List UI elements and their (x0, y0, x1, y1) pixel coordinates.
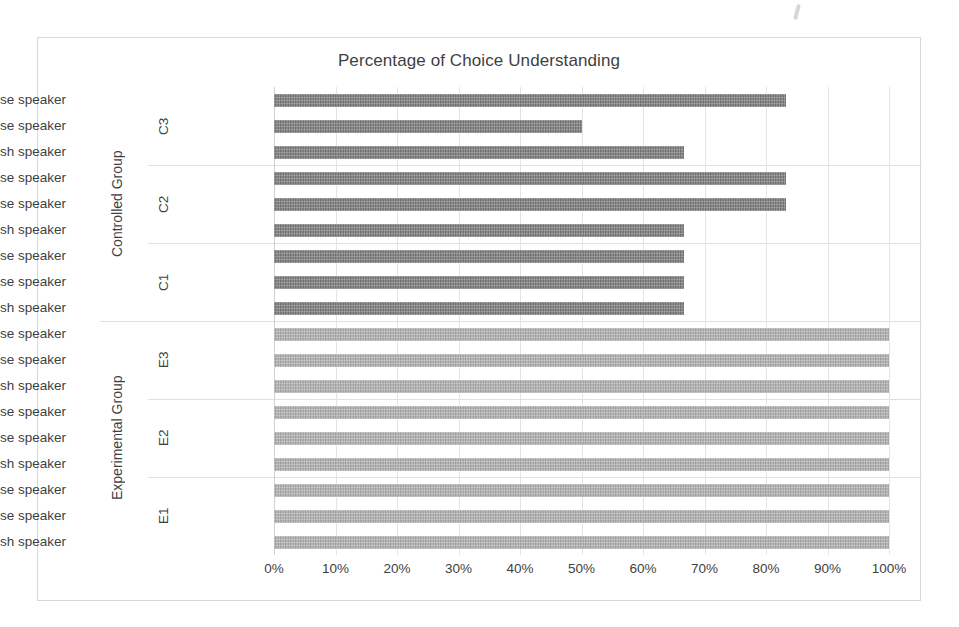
bar-slot (274, 165, 786, 191)
bar-c2-japanese (274, 198, 786, 211)
category-label-c1-english: English speaker (0, 295, 66, 321)
bar-e2-japanese (274, 432, 889, 445)
bar-slot (274, 243, 684, 269)
bars-layer (274, 87, 889, 555)
bar-c1-chinese (274, 250, 684, 263)
bar-e3-english (274, 380, 889, 393)
bar-slot (274, 451, 889, 477)
bar-c2-english (274, 224, 684, 237)
bar-slot (274, 347, 889, 373)
bar-slot (274, 373, 889, 399)
category-label-c2-english: English speaker (0, 217, 66, 243)
category-label-c3-english: English speaker (0, 139, 66, 165)
bar-e3-chinese (274, 328, 889, 341)
bar-c2-chinese (274, 172, 786, 185)
bar-e2-chinese (274, 406, 889, 419)
category-label-c1-chinese: Chinese speaker (0, 243, 66, 269)
tick-label-100%: 100% (859, 561, 919, 576)
subgroup-label-c1: C1 (150, 243, 176, 321)
subgroup-label-c3: C3 (150, 87, 176, 165)
subgroup-label-e3: E3 (150, 321, 176, 399)
category-label-c3-japanese: Japanese speaker (0, 113, 66, 139)
category-label-c2-chinese: Chinese speaker (0, 165, 66, 191)
bar-slot (274, 295, 684, 321)
category-label-c1-japanese: Japanese speaker (0, 269, 66, 295)
bar-slot (274, 87, 786, 113)
category-label-e1-japanese: Japanese speaker (0, 503, 66, 529)
category-label-e2-chinese: Chinese speaker (0, 399, 66, 425)
category-label-c2-japanese: Japanese speaker (0, 191, 66, 217)
bar-slot (274, 399, 889, 425)
bar-e2-english (274, 458, 889, 471)
bar-c1-english (274, 302, 684, 315)
group-label-controlled-group: Controlled Group (102, 87, 132, 321)
bar-c3-chinese (274, 94, 786, 107)
bar-slot (274, 217, 684, 243)
bar-slot (274, 321, 889, 347)
chart-title: Percentage of Choice Understanding (38, 51, 920, 71)
category-label-e3-japanese: Japanese speaker (0, 347, 66, 373)
bar-slot (274, 529, 889, 555)
category-label-e1-chinese: Chinese speaker (0, 477, 66, 503)
bar-c3-english (274, 146, 684, 159)
subgroup-label-e2: E2 (150, 399, 176, 477)
category-label-e3-chinese: Chinese speaker (0, 321, 66, 347)
gridline-100% (889, 87, 890, 555)
bar-slot (274, 477, 889, 503)
bar-e1-japanese (274, 510, 889, 523)
tick-label-70%: 70% (675, 561, 735, 576)
bar-e1-english (274, 536, 889, 549)
tick-label-40%: 40% (490, 561, 550, 576)
bar-c1-japanese (274, 276, 684, 289)
tick-label-30%: 30% (429, 561, 489, 576)
bar-slot (274, 503, 889, 529)
bar-slot (274, 139, 684, 165)
plot-area (274, 87, 889, 555)
bar-slot (274, 113, 582, 139)
scan-artifact-speck (793, 4, 801, 20)
tick-label-20%: 20% (367, 561, 427, 576)
category-label-e1-english: English speaker (0, 529, 66, 555)
tick-label-50%: 50% (552, 561, 612, 576)
category-label-e2-english: English speaker (0, 451, 66, 477)
tick-label-0%: 0% (244, 561, 304, 576)
tick-label-60%: 60% (613, 561, 673, 576)
tick-label-90%: 90% (798, 561, 858, 576)
subgroup-label-c2: C2 (150, 165, 176, 243)
bar-c3-japanese (274, 120, 582, 133)
bar-slot (274, 269, 684, 295)
category-label-e3-english: English speaker (0, 373, 66, 399)
tick-label-80%: 80% (736, 561, 796, 576)
category-label-e2-japanese: Japanese speaker (0, 425, 66, 451)
bar-slot (274, 425, 889, 451)
tick-label-10%: 10% (306, 561, 366, 576)
bar-e3-japanese (274, 354, 889, 367)
chart-frame: Percentage of Choice Understanding Chine… (37, 37, 921, 601)
bar-e1-chinese (274, 484, 889, 497)
category-label-c3-chinese: Chinese speaker (0, 87, 66, 113)
subgroup-label-e1: E1 (150, 477, 176, 555)
bar-slot (274, 191, 786, 217)
group-label-experimental-group: Experimental Group (102, 321, 132, 555)
